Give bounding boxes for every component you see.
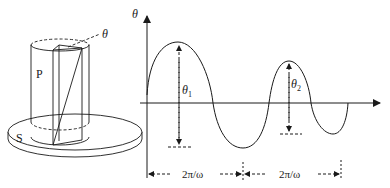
oscillation-curve <box>147 42 348 148</box>
period-1-label: 2π/ω <box>182 168 203 180</box>
base-disk <box>8 114 142 157</box>
torsion-apparatus <box>8 34 142 157</box>
oscillation-graph <box>140 16 380 182</box>
diagram-canvas: θ P S θ <box>0 0 390 188</box>
y-axis-label: θ <box>132 7 138 21</box>
cylinder-label-P: P <box>36 67 43 81</box>
base-label-S: S <box>16 131 23 145</box>
theta2-label: θ2 <box>291 77 301 93</box>
apparatus-theta-label: θ <box>102 27 108 41</box>
theta-leader-line <box>68 34 100 47</box>
period-markers <box>149 160 341 182</box>
period-2-label: 2π/ω <box>279 168 300 180</box>
theta1-label: θ1 <box>182 83 192 99</box>
theta2-amplitude-marker <box>280 64 302 134</box>
